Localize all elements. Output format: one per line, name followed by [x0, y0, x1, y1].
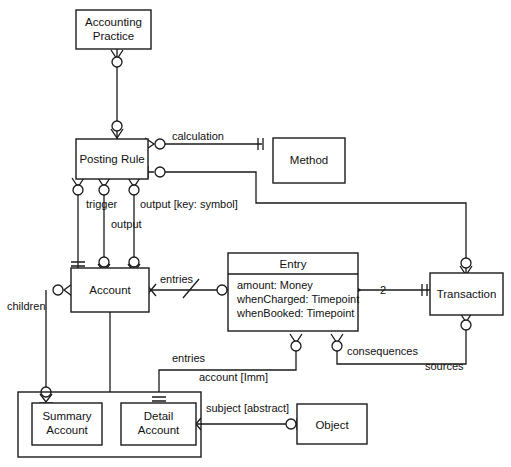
marker-circle-consequences	[332, 341, 342, 351]
label-children: children	[7, 300, 46, 312]
marker-circle-trigger	[73, 185, 83, 195]
marker-circle-practice	[112, 57, 122, 67]
label-consequences: consequences	[347, 345, 418, 357]
class-box-transaction[interactable]: Transaction	[430, 273, 503, 315]
entry-attribute-whenbooked: whenBooked: Timepoint	[236, 307, 354, 319]
label-entries-detail: entries	[172, 352, 206, 364]
marker-doublebar-detail-account	[152, 397, 166, 401]
class-box-summary-account[interactable]: Summary Account	[32, 403, 102, 445]
entry-attribute-whencharged: whenCharged: Timepoint	[236, 293, 359, 305]
marker-circle-output	[99, 185, 109, 195]
label-output-key-symbol: output [key: symbol]	[140, 198, 238, 210]
marker-circle-account-output	[99, 257, 109, 267]
label-output: output	[111, 218, 142, 230]
detail-account-name-line2: Account	[138, 424, 180, 436]
marker-circle-output-second	[129, 185, 139, 195]
class-box-method[interactable]: Method	[273, 138, 345, 183]
label-sources: sources	[425, 360, 464, 372]
account-name: Account	[89, 284, 131, 296]
accounting-practice-name-line2: Practice	[93, 30, 135, 42]
marker-circle-entry-account	[291, 341, 301, 351]
summary-account-name-line2: Account	[46, 424, 88, 436]
class-box-posting-rule[interactable]: Posting Rule	[76, 139, 148, 179]
marker-circle-children	[53, 285, 63, 295]
class-box-entry[interactable]: Entry amount: Money whenCharged: Timepoi…	[228, 253, 359, 331]
label-calculation: calculation	[172, 130, 224, 142]
class-box-account[interactable]: Account	[71, 268, 149, 312]
label-trigger: trigger	[86, 198, 118, 210]
marker-circle-postingrule-top	[112, 121, 122, 131]
marker-bar-outputkey	[148, 166, 154, 178]
diagram-svg: Accounting Practice Posting Rule Method …	[0, 0, 511, 467]
class-box-accounting-practice[interactable]: Accounting Practice	[76, 10, 151, 49]
entry-attribute-amount: amount: Money	[237, 279, 313, 291]
marker-circle-sources	[461, 320, 471, 330]
label-entries-account: entries	[160, 273, 194, 285]
object-name: Object	[315, 419, 349, 431]
accounting-practice-name-line1: Accounting	[85, 16, 142, 28]
uml-diagram-canvas: Accounting Practice Posting Rule Method …	[0, 0, 511, 467]
entry-name: Entry	[280, 258, 307, 270]
summary-account-name-line1: Summary	[42, 410, 91, 422]
marker-circle-subject-object	[286, 419, 296, 429]
method-name: Method	[290, 154, 328, 166]
marker-circle-calculation	[155, 139, 165, 149]
transaction-name: Transaction	[437, 288, 497, 300]
posting-rule-name: Posting Rule	[79, 153, 144, 165]
class-box-detail-account[interactable]: Detail Account	[121, 403, 196, 445]
class-box-object[interactable]: Object	[297, 404, 367, 444]
label-account-imm: account [Imm]	[199, 371, 268, 383]
marker-circle-outputkey	[155, 167, 165, 177]
marker-circle-entries-entry	[217, 285, 227, 295]
marker-circle-account-output2	[129, 257, 139, 267]
label-multiplicity-two: 2	[380, 284, 386, 296]
detail-account-name-line1: Detail	[144, 410, 173, 422]
label-subject-abstract: subject [abstract]	[206, 402, 289, 414]
marker-circle-transaction-top	[461, 258, 471, 268]
